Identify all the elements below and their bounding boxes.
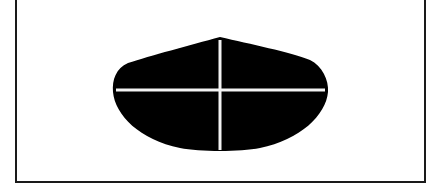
diagram-canvas [0,0,446,185]
